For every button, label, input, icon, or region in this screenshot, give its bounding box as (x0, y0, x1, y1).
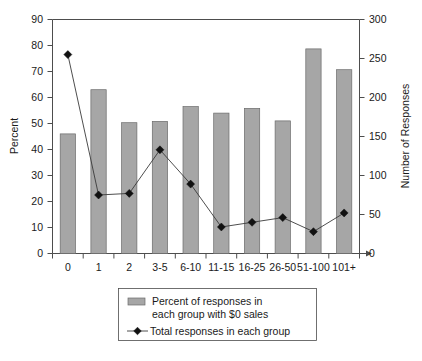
left-tick-4: 40 (31, 143, 52, 155)
data-point-marker (64, 51, 72, 59)
bar-7 (275, 121, 290, 254)
category-label: 1 (96, 261, 102, 273)
right-tick-5: 250 (360, 52, 387, 64)
dual-axis-bar-line-chart: 0 10 20 30 40 50 (0, 0, 422, 361)
right-tick-4: 200 (360, 91, 387, 103)
right-tick-2: 100 (360, 169, 387, 181)
bar-series (60, 49, 352, 254)
category-label: 0 (65, 261, 71, 273)
bar-6 (244, 108, 259, 253)
right-tick-1: 50 (360, 208, 381, 220)
right-tick-label: 300 (369, 13, 387, 25)
chart-legend: Percent of responses in each group with … (119, 289, 317, 341)
left-tick-2: 20 (31, 195, 52, 207)
right-tick-label: 150 (369, 130, 387, 142)
legend-entry-bar-line1: Percent of responses in (152, 295, 262, 307)
chart-figure: 0 10 20 30 40 50 (0, 0, 422, 361)
category-labels: 0 1 2 3-5 6-10 11-15 16-25 26-50 51-100 … (65, 261, 356, 273)
category-label: 26-50 (269, 261, 296, 273)
legend-entry-line-line1: Total responses in each group (150, 325, 290, 337)
category-label: 6-10 (180, 261, 201, 273)
bar-2 (122, 123, 137, 254)
left-tick-3: 30 (31, 169, 52, 181)
right-axis-title: Number of Responses (399, 84, 411, 188)
category-label: 2 (126, 261, 132, 273)
bar-8 (306, 49, 321, 254)
left-tick-6: 60 (31, 91, 52, 103)
left-tick-9: 90 (31, 13, 52, 25)
left-tick-label: 90 (31, 13, 43, 25)
left-tick-label: 30 (31, 169, 43, 181)
right-tick-label: 50 (369, 208, 381, 220)
bar-9 (337, 70, 352, 254)
left-tick-label: 80 (31, 39, 43, 51)
left-tick-8: 80 (31, 39, 52, 51)
left-tick-label: 10 (31, 221, 43, 233)
right-tick-6: 300 (360, 13, 387, 25)
category-label: 101+ (332, 261, 356, 273)
total-responses-line (68, 55, 344, 232)
left-tick-label: 40 (31, 143, 43, 155)
left-tick-label: 0 (37, 247, 43, 259)
category-label: 51-100 (297, 261, 330, 273)
left-tick-label: 70 (31, 65, 43, 77)
left-tick-5: 50 (31, 117, 52, 129)
left-tick-label: 50 (31, 117, 43, 129)
bar-5 (214, 113, 229, 253)
right-tick-label: 200 (369, 91, 387, 103)
right-tick-label: 250 (369, 52, 387, 64)
category-ticks (53, 254, 360, 259)
left-tick-7: 70 (31, 65, 52, 77)
left-tick-label: 20 (31, 195, 43, 207)
left-tick-0: 0 (37, 247, 52, 259)
category-label: 16-25 (239, 261, 266, 273)
left-tick-label: 60 (31, 91, 43, 103)
right-tick-label: 100 (369, 169, 387, 181)
right-tick-label: 0 (369, 247, 375, 259)
left-axis-title: Percent (8, 118, 20, 154)
right-axis-ticks: 0 50 100 150 200 250 (360, 13, 387, 259)
bar-0 (60, 134, 75, 254)
legend-entry-bar-line2: each group with $0 sales (152, 308, 268, 320)
category-label: 3-5 (152, 261, 167, 273)
left-tick-1: 10 (31, 221, 52, 233)
bar-3 (152, 121, 167, 253)
category-label: 11-15 (208, 261, 234, 273)
right-tick-3: 150 (360, 130, 387, 142)
legend-bar-swatch-icon (128, 298, 145, 305)
left-axis-ticks: 0 10 20 30 40 50 (31, 13, 52, 259)
